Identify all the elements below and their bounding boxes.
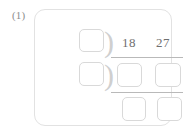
division-rule-top xyxy=(111,57,183,58)
quotient-left-box[interactable] xyxy=(79,62,104,86)
work-box-middle-2[interactable] xyxy=(155,63,181,87)
divisor-box[interactable] xyxy=(79,29,104,52)
dividend-digit-group-2: 27 xyxy=(156,35,170,51)
division-rule-middle xyxy=(111,92,183,93)
dividend-digit-group-1: 18 xyxy=(122,35,136,51)
work-box-middle-1[interactable] xyxy=(117,63,142,87)
division-bracket-middle-icon: ) xyxy=(104,60,114,90)
division-bracket-top-icon: ) xyxy=(104,27,114,57)
problem-number-label: (1) xyxy=(12,9,25,21)
problem-card: ) 18 27 ) xyxy=(34,9,172,126)
work-box-bottom-1[interactable] xyxy=(122,97,146,121)
work-box-bottom-2[interactable] xyxy=(157,97,182,121)
worksheet-canvas: (1) ) 18 27 ) xyxy=(0,0,183,134)
